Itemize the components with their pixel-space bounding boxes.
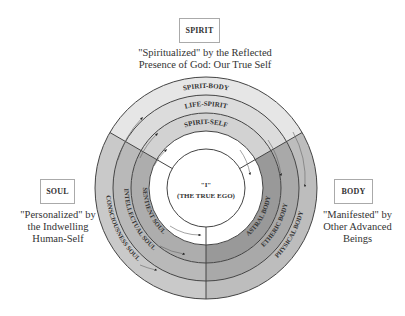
- ego-i-label: "I": [201, 181, 212, 189]
- ego-ring-diagram: SPIRIT-BODY LIFE-SPIRIT SPIRIT-SELF CONS…: [0, 0, 405, 316]
- ego-true-ego-label: (THE TRUE EGO): [177, 192, 235, 200]
- flow-arrow-sentient: [170, 226, 200, 235]
- flow-arrow-astral: [240, 150, 250, 174]
